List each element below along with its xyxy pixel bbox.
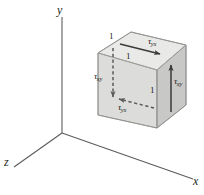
cube-dimension-label-front: 1 [150, 86, 155, 95]
z-axis [14, 133, 62, 167]
tau-xy-left-label: τxy [94, 72, 103, 81]
y-axis-label: y [57, 4, 62, 16]
stress-cube [98, 32, 186, 128]
x-axis [62, 133, 193, 179]
tau-xy-right-label: τxy [174, 77, 183, 86]
tau-xy-left-subscript: xy [97, 75, 103, 82]
cube-dimension-label-top: 1 [109, 32, 114, 41]
tau-yx-top-subscript: yx [151, 40, 157, 47]
tau-yx-bottom-label: τyx [118, 103, 127, 112]
z-axis-label: z [4, 156, 9, 168]
cube-dimension-label-left: 1 [126, 52, 131, 61]
figure-canvas [0, 0, 204, 195]
tau-yx-top-label: τyx [148, 37, 157, 46]
x-axis-label: x [193, 175, 198, 187]
tau-yx-bottom-subscript: yx [121, 106, 127, 113]
tau-xy-right-subscript: xy [177, 80, 183, 87]
stress-element-figure: y x z 1 1 1 τyx τxy τxy τyx [0, 0, 204, 195]
